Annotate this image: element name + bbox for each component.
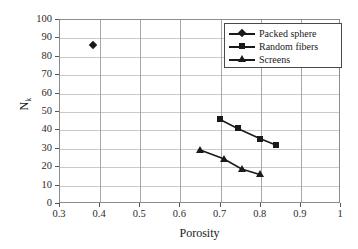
legend-marker-square-icon — [229, 41, 255, 52]
x-axis-tick-label: 0.5 — [119, 209, 159, 219]
legend-marker-triangle-icon — [229, 54, 255, 65]
y-axis-tick-label: 10 — [18, 180, 52, 190]
x-axis-tick-label: 1 — [320, 209, 358, 219]
y-axis-tick-mark — [55, 93, 59, 94]
x-axis-title: Porosity — [59, 226, 340, 241]
y-axis-tick-mark — [55, 166, 59, 167]
y-axis-tick-mark — [55, 185, 59, 186]
y-axis-tick-label: 0 — [18, 198, 52, 208]
y-axis-tick-mark — [55, 129, 59, 130]
chart-legend[interactable]: Packed sphereRandom fibersScreens — [224, 23, 342, 68]
y-axis-title-text: N — [17, 102, 31, 111]
x-axis-tick-mark — [260, 203, 261, 207]
y-axis-tick-label: 20 — [18, 161, 52, 171]
legend-item[interactable]: Random fibers — [229, 40, 337, 53]
legend-item-label: Packed sphere — [255, 28, 316, 39]
y-axis-tick-label: 30 — [18, 143, 52, 153]
y-axis-tick-mark — [55, 19, 59, 20]
x-axis-tick-mark — [340, 203, 341, 207]
x-axis-tick-mark — [300, 203, 301, 207]
x-axis-tick-mark — [59, 203, 60, 207]
chart-container: 01020304050607080901000.30.40.50.60.70.8… — [0, 0, 358, 249]
legend-item-label: Screens — [255, 54, 290, 65]
y-axis-tick-label: 80 — [18, 51, 52, 61]
x-axis-tick-label: 0.3 — [39, 209, 79, 219]
x-axis-tick-label: 0.7 — [200, 209, 240, 219]
x-axis-tick-mark — [139, 203, 140, 207]
legend-item[interactable]: Packed sphere — [229, 27, 337, 40]
x-axis-tick-label: 0.9 — [280, 209, 320, 219]
y-axis-tick-label: 100 — [18, 14, 52, 24]
y-axis-tick-mark — [55, 111, 59, 112]
y-axis-tick-mark — [55, 37, 59, 38]
y-axis-tick-label: 70 — [18, 69, 52, 79]
y-axis-tick-label: 90 — [18, 32, 52, 42]
y-axis-tick-mark — [55, 56, 59, 57]
x-axis-tick-label: 0.4 — [79, 209, 119, 219]
y-axis-title-subscript: k — [24, 98, 33, 102]
y-axis-tick-mark — [55, 148, 59, 149]
y-axis-tick-label: 40 — [18, 124, 52, 134]
x-axis-tick-mark — [220, 203, 221, 207]
y-axis-title: Nk — [17, 87, 33, 121]
legend-item-label: Random fibers — [255, 41, 318, 52]
x-axis-tick-label: 0.8 — [240, 209, 280, 219]
legend-marker-diamond-icon — [229, 28, 255, 39]
x-axis-tick-label: 0.6 — [159, 209, 199, 219]
x-axis-tick-mark — [99, 203, 100, 207]
y-axis-tick-mark — [55, 74, 59, 75]
x-axis-tick-mark — [179, 203, 180, 207]
legend-item[interactable]: Screens — [229, 53, 337, 66]
